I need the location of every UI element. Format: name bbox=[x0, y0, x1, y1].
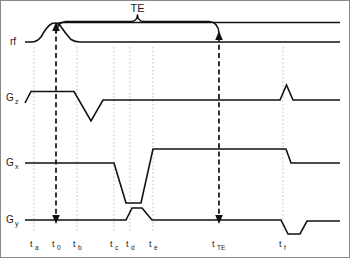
waveform-gy bbox=[25, 208, 340, 234]
channel-label-gx: G bbox=[6, 157, 14, 168]
pulse-sequence-diagram: TE rf G z G x G y t a t 0 t b bbox=[0, 0, 350, 258]
time-tick-labels: t a t 0 t b t c t d t e t TE t f bbox=[30, 239, 286, 251]
tick-label-te: t bbox=[149, 239, 152, 249]
tick-label-tTE: t bbox=[212, 239, 215, 249]
tick-label-ta: t bbox=[30, 239, 33, 249]
tick-sub-tTE: TE bbox=[217, 244, 226, 251]
figure-border bbox=[1, 1, 350, 258]
arrowhead-tTE-up bbox=[215, 31, 223, 40]
channel-label-gz-sub: z bbox=[15, 98, 19, 105]
channel-label-rf: rf bbox=[10, 36, 16, 47]
tick-label-tf: t bbox=[279, 239, 282, 249]
tick-label-td: t bbox=[126, 239, 129, 249]
tick-label-tc: t bbox=[110, 239, 113, 249]
tick-sub-tc: c bbox=[115, 244, 119, 251]
tick-sub-ta: a bbox=[35, 244, 39, 251]
channel-label-gy-sub: y bbox=[15, 220, 19, 228]
te-label: TE bbox=[130, 2, 144, 14]
tick-sub-t0: 0 bbox=[57, 244, 61, 251]
channel-label-gx-sub: x bbox=[15, 163, 19, 170]
time-guides bbox=[34, 47, 283, 232]
channel-label-gy: G bbox=[6, 214, 14, 225]
te-bracket bbox=[56, 15, 219, 33]
tick-label-tb: t bbox=[73, 239, 76, 249]
tick-label-t0: t bbox=[52, 239, 55, 249]
waveform-gz bbox=[25, 85, 340, 121]
te-span-markers bbox=[52, 22, 223, 224]
waveform-rf-top-plateau bbox=[56, 23, 340, 24]
channel-labels: rf G z G x G y bbox=[6, 36, 19, 228]
channel-label-gz: G bbox=[6, 92, 14, 103]
tick-sub-te: e bbox=[154, 244, 158, 251]
tick-sub-tb: b bbox=[78, 244, 82, 251]
tick-sub-tf: f bbox=[284, 244, 286, 251]
waveform-gx bbox=[25, 149, 340, 203]
diagram-canvas: TE rf G z G x G y t a t 0 t b bbox=[0, 0, 350, 258]
waveform-rf bbox=[25, 23, 340, 42]
tick-sub-td: d bbox=[131, 244, 135, 251]
